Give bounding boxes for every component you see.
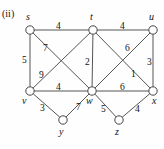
graph-node-v[interactable] bbox=[26, 87, 34, 95]
node-label-z: z bbox=[115, 127, 119, 137]
graph-node-s[interactable] bbox=[26, 26, 34, 34]
node-label-w: w bbox=[86, 96, 93, 106]
graph-edge-v-y bbox=[33, 94, 60, 117]
edge-weight-u-w: 6 bbox=[125, 44, 130, 54]
node-label-t: t bbox=[90, 12, 93, 22]
edge-weight-u-x: 3 bbox=[147, 58, 152, 68]
edge-weight-y-w: 7 bbox=[76, 103, 81, 113]
node-label-u: u bbox=[149, 12, 154, 22]
graph-node-u[interactable] bbox=[149, 26, 157, 34]
node-label-x: x bbox=[152, 96, 156, 106]
graph-node-x[interactable] bbox=[149, 87, 157, 95]
edge-weight-s-v: 5 bbox=[22, 56, 27, 66]
node-label-s: s bbox=[26, 12, 30, 22]
edge-weight-s-w: 7 bbox=[43, 44, 48, 54]
edge-weight-v-t: 9 bbox=[39, 71, 44, 81]
edge-weight-s-t: 4 bbox=[56, 22, 61, 32]
graph-figure: (ii) 445792163463754stuvwxyz bbox=[0, 0, 164, 149]
graph-node-z[interactable] bbox=[115, 116, 123, 124]
edge-weight-t-x: 1 bbox=[131, 70, 136, 80]
edge-weight-v-y: 3 bbox=[40, 104, 45, 114]
edge-weight-w-x: 6 bbox=[120, 83, 125, 93]
graph-node-y[interactable] bbox=[59, 116, 67, 124]
edge-weight-v-w: 4 bbox=[56, 83, 61, 93]
graph-node-w[interactable] bbox=[88, 87, 96, 95]
graph-edge-t-w bbox=[92, 34, 93, 87]
edge-weight-t-u: 4 bbox=[120, 22, 125, 32]
graph-canvas bbox=[0, 0, 164, 149]
edge-weight-z-x: 4 bbox=[135, 105, 140, 115]
graph-node-t[interactable] bbox=[89, 26, 97, 34]
node-label-v: v bbox=[22, 96, 26, 106]
edge-weight-t-w: 2 bbox=[85, 58, 90, 68]
node-label-y: y bbox=[59, 127, 63, 137]
edge-weight-w-z: 5 bbox=[101, 105, 106, 115]
